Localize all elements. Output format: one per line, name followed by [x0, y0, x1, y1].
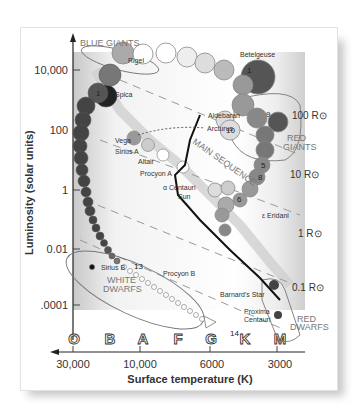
y-tick-0.0001: .0001: [40, 299, 68, 311]
label-100-rsun: 100 R⊙: [292, 110, 327, 121]
label-procyon-b: Procyon B: [163, 270, 196, 278]
y-tick-10000: 10,000: [34, 64, 68, 76]
label-betelgeuse: Betelgeuse: [240, 51, 275, 59]
label-alpha-centauri: α Centauri: [163, 184, 196, 191]
label-red-giants-2: GIANTS: [283, 142, 317, 152]
class-f: F: [173, 330, 182, 347]
class-g: G: [205, 330, 217, 347]
y-tick-0.01: 0.01: [47, 243, 68, 255]
track-number-1: 1: [96, 89, 101, 98]
label-sun: Sun: [178, 193, 191, 200]
label-0.1-rsun: 0.1 R⊙: [292, 282, 324, 293]
label-rigel: Rigel: [128, 57, 144, 65]
x-tick-6000: 6000: [200, 358, 224, 370]
label-centauri: Centauri: [244, 316, 271, 323]
y-axis-arrow-icon: [70, 33, 76, 42]
label-altair: Altair: [138, 158, 155, 165]
label-10-rsun: 10 R⊙: [290, 169, 319, 180]
track-number-14: 14: [230, 329, 239, 338]
label-vega: Vega: [115, 137, 131, 145]
track-number-6: 6: [237, 195, 242, 204]
x-tick-10000: 10,000: [123, 358, 157, 370]
label-white-dwarfs-2: DWARFS: [103, 284, 142, 294]
class-m: M: [274, 330, 287, 347]
x-tick-3000: 3000: [268, 358, 292, 370]
y-tick-1: 1: [62, 184, 68, 196]
track-number-1b: 1: [247, 66, 252, 75]
label-spica: Spica: [115, 91, 133, 99]
class-a: A: [138, 330, 149, 347]
track-number-5: 5: [261, 161, 266, 170]
label-red-dwarfs-2: DWARFS: [290, 322, 329, 332]
class-o: O: [68, 330, 80, 347]
track-number-8: 8: [258, 173, 263, 182]
label-eps-eridani: ε Eridani: [262, 212, 289, 219]
label-aldebaran: Aldebaran: [208, 112, 240, 119]
track-number-13: 13: [134, 262, 143, 271]
hr-diagram: 10,000 100 1 0.01 .0001 Luminosity (sola…: [0, 0, 355, 416]
label-proxima: Proxima: [244, 308, 270, 315]
track-end-arrow-icon: [204, 316, 216, 328]
track-number-10: 10: [226, 126, 235, 135]
x-tick-30000: 30,000: [56, 358, 90, 370]
class-b: B: [105, 330, 116, 347]
track-number-9: 9: [266, 110, 271, 119]
x-axis-label: Surface temperature (K): [127, 373, 253, 385]
label-sirius-a: Sirius A: [115, 148, 139, 155]
y-tick-100: 100: [50, 124, 68, 136]
label-barnards-star: Barnard's Star: [220, 291, 265, 298]
class-k: K: [240, 330, 251, 347]
label-blue-giants: BLUE GIANTS: [80, 38, 140, 48]
label-1-rsun: 1 R⊙: [298, 228, 322, 239]
x-axis-arrow-icon: [50, 349, 59, 355]
label-procyon-a: Procyon A: [140, 170, 172, 178]
y-axis-label: Luminosity (solar units): [23, 130, 35, 255]
label-sirius-b: Sirius B: [101, 264, 125, 271]
